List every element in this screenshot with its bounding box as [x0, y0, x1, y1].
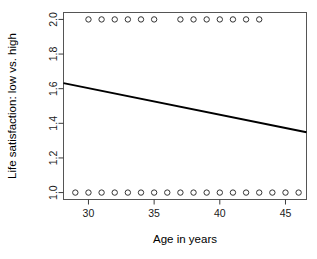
- data-point: [204, 190, 209, 195]
- regression-line: [64, 83, 307, 132]
- data-point: [125, 190, 130, 195]
- y-tick-label: 1.0: [47, 185, 59, 200]
- data-point: [125, 17, 130, 22]
- data-point: [243, 190, 248, 195]
- data-point: [191, 190, 196, 195]
- data-point: [204, 17, 209, 22]
- data-point: [257, 190, 262, 195]
- y-axis-title: Life satisfaction: low vs. high: [6, 33, 18, 179]
- data-point: [217, 190, 222, 195]
- x-tick-label: 45: [280, 207, 292, 219]
- x-tick-label: 35: [148, 207, 160, 219]
- data-point: [138, 17, 143, 22]
- data-point: [257, 17, 262, 22]
- data-point: [270, 190, 275, 195]
- data-point: [99, 190, 104, 195]
- y-axis-ticks: 1.01.21.41.61.82.0: [47, 12, 63, 200]
- data-point: [178, 190, 183, 195]
- data-point: [178, 17, 183, 22]
- x-axis-title: Age in years: [153, 233, 217, 245]
- x-tick-label: 40: [214, 207, 226, 219]
- data-point: [230, 190, 235, 195]
- data-points-layer: [73, 17, 302, 196]
- data-point: [191, 17, 196, 22]
- data-point: [151, 17, 156, 22]
- y-tick-label: 2.0: [47, 12, 59, 27]
- y-tick-label: 1.6: [47, 81, 59, 96]
- data-point: [86, 190, 91, 195]
- data-point: [217, 17, 222, 22]
- y-tick-label: 1.4: [47, 116, 59, 131]
- scatter-plot-figure: 30354045 1.01.21.41.61.82.0 Age in years…: [0, 0, 317, 259]
- y-tick-label: 1.2: [47, 150, 59, 165]
- data-point: [296, 190, 301, 195]
- y-tick-label: 1.8: [47, 47, 59, 62]
- plot-canvas: 30354045 1.01.21.41.61.82.0 Age in years…: [0, 0, 317, 259]
- data-point: [165, 190, 170, 195]
- regression-line-layer: [64, 83, 307, 132]
- x-axis-ticks: 30354045: [83, 200, 292, 219]
- data-point: [138, 190, 143, 195]
- data-point: [86, 17, 91, 22]
- data-point: [99, 17, 104, 22]
- data-point: [283, 190, 288, 195]
- data-point: [112, 190, 117, 195]
- data-point: [112, 17, 117, 22]
- data-point: [151, 190, 156, 195]
- data-point: [230, 17, 235, 22]
- plot-frame: [64, 13, 307, 200]
- x-tick-label: 30: [83, 207, 95, 219]
- data-point: [243, 17, 248, 22]
- data-point: [73, 190, 78, 195]
